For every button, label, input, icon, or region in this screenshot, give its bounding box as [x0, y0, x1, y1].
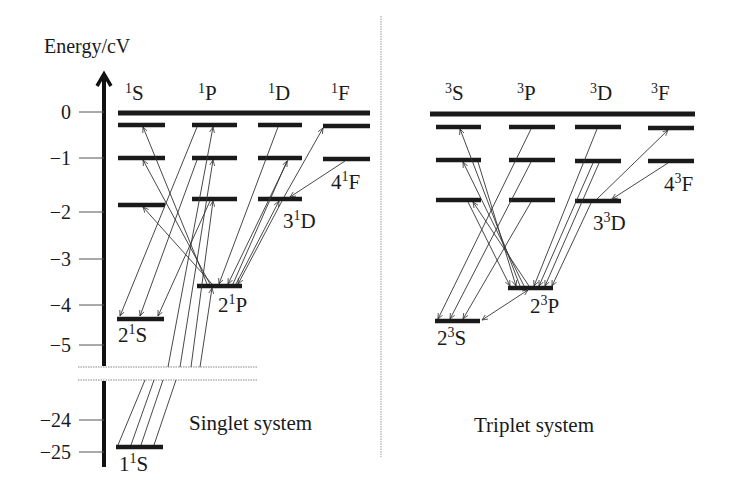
transition-arrow [158, 201, 210, 316]
transition-arrow [473, 202, 529, 286]
transition-arrow [482, 290, 528, 320]
singlet-label-1s: 11S [119, 451, 148, 476]
triplet-col-label-f: 3F [651, 81, 670, 105]
singlet-label-3d: 31D [283, 208, 316, 233]
singlet-label-4f: 41F [331, 169, 360, 194]
y-ticks: 0 −1 −2 −3 −4 −5 −24 −25 [40, 101, 104, 463]
energy-level-diagram: Energy/cV 0 −1 −2 −3 −4 −5 −24 −25 1S 1P… [0, 0, 736, 503]
singlet-system: 1S 1P 1D 1F [116, 81, 370, 476]
singlet-col-label-s: 1S [125, 81, 144, 105]
transition-arrow [460, 129, 520, 286]
transition-arrow [180, 160, 213, 367]
transition-arrow [463, 202, 531, 319]
singlet-col-label-f: 1F [331, 81, 350, 105]
transition-arrow [284, 128, 323, 197]
transition-arrow [597, 130, 668, 199]
transition-arrow [612, 163, 668, 199]
transition-arrow [120, 127, 197, 316]
tick-label: −24 [40, 409, 71, 431]
triplet-label-3d: 33D [593, 210, 626, 235]
transition-arrow [478, 162, 516, 286]
transition-arrow [238, 201, 282, 284]
axis-title: Energy/cV [44, 35, 131, 58]
transition-arrow [552, 203, 591, 286]
triplet-col-label-d: 3D [590, 81, 612, 105]
triplet-label-2s: 23S [437, 325, 466, 350]
tick-label: −1 [50, 147, 71, 169]
transition-arrow [143, 160, 210, 284]
singlet-col-label-d: 1D [268, 81, 290, 105]
tick-label: −5 [50, 334, 71, 356]
triplet-col-label-p: 3P [517, 81, 536, 105]
tick-label: 0 [61, 101, 71, 123]
transition-arrow [438, 129, 531, 319]
transition-line [131, 380, 154, 445]
transition-arrow [236, 201, 279, 284]
transition-arrow [545, 163, 599, 286]
triplet-label-2p: 23P [530, 293, 559, 318]
transition-arrow [233, 161, 287, 284]
transition-arrow [168, 127, 213, 367]
transition-line [141, 380, 163, 445]
tick-label: −4 [50, 294, 71, 316]
transition-line [118, 380, 145, 445]
singlet-col-label-p: 1P [198, 81, 217, 105]
tick-label: −3 [50, 248, 71, 270]
tick-label: −25 [40, 441, 71, 463]
triplet-transitions [438, 129, 668, 320]
triplet-label-4f: 43F [664, 171, 693, 196]
singlet-label-2p: 21P [218, 292, 247, 317]
triplet-system: 3S 3P 3D 3F [430, 81, 695, 437]
triplet-col-label-s: 3S [445, 81, 464, 105]
tick-label: −2 [50, 201, 71, 223]
transition-line [154, 380, 176, 445]
singlet-label-2s: 21S [118, 322, 147, 347]
transition-arrow [200, 288, 212, 367]
singlet-system-title: Singlet system [189, 411, 312, 435]
triplet-system-title: Triplet system [474, 413, 594, 437]
transition-arrow [534, 129, 597, 286]
transition-arrow [539, 163, 593, 286]
